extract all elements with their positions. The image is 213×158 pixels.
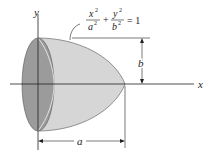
svg-text:b: b [138,57,144,69]
svg-text:x: x [88,8,94,19]
y-axis-label: y [33,6,39,18]
svg-text:y: y [112,8,118,19]
solid-diagram: x y x 2 a 2 + y 2 b 2 = 1 b b a [0,0,213,158]
svg-text:b: b [112,21,117,32]
svg-text:+: + [103,14,109,25]
equation-leader [70,24,80,40]
svg-text:2: 2 [95,7,98,13]
svg-text:2: 2 [94,20,97,26]
svg-text:a: a [88,21,93,32]
a-label: a [77,135,83,147]
svg-text:2: 2 [118,20,121,26]
equation: x 2 a 2 + y 2 b 2 = 1 [86,7,140,32]
svg-text:= 1: = 1 [127,15,140,26]
x-axis-label: x [197,78,203,90]
svg-text:2: 2 [119,7,122,13]
